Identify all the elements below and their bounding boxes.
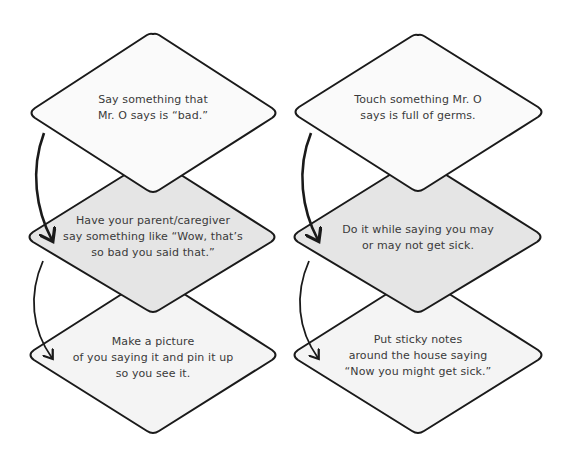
right-step-2-text: Do it while saying you may or may not ge… xyxy=(342,222,494,254)
text-line: Make a picture xyxy=(73,334,234,350)
left-step-3-text: Make a picture of you saying it and pin … xyxy=(73,334,234,382)
right-step-1-text: Touch something Mr. O says is full of ge… xyxy=(354,92,482,124)
text-line: Touch something Mr. O xyxy=(354,92,482,108)
text-line: so bad you said that.” xyxy=(63,245,243,261)
text-line: around the house saying xyxy=(345,348,492,364)
text-line: say something like “Wow, that’s xyxy=(63,229,243,245)
text-line: Put sticky notes xyxy=(345,332,492,348)
text-line: Mr. O says is “bad.” xyxy=(98,108,208,124)
text-line: so you see it. xyxy=(73,366,234,382)
text-line: or may not get sick. xyxy=(342,238,494,254)
text-line: “Now you might get sick.” xyxy=(345,364,492,380)
left-step-1-text: Say something that Mr. O says is “bad.” xyxy=(98,92,208,124)
text-line: says is full of germs. xyxy=(354,108,482,124)
text-line: Do it while saying you may xyxy=(342,222,494,238)
right-step-3-text: Put sticky notes around the house saying… xyxy=(345,332,492,380)
text-line: Say something that xyxy=(98,92,208,108)
text-line: of you saying it and pin it up xyxy=(73,350,234,366)
left-step-2-text: Have your parent/caregiver say something… xyxy=(63,213,243,261)
text-line: Have your parent/caregiver xyxy=(63,213,243,229)
